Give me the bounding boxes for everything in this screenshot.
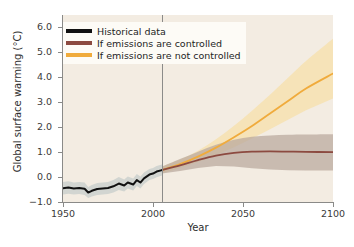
legend-swatch-controlled xyxy=(66,41,92,45)
x-tick xyxy=(153,203,154,207)
y-tick-label: 0.0 xyxy=(18,172,52,181)
y-tick xyxy=(58,52,62,53)
legend-swatch-historical xyxy=(66,29,92,33)
legend-item-historical: Historical data xyxy=(66,25,241,37)
legend-item-uncontrolled: If emissions are not controlled xyxy=(66,49,241,61)
legend-swatch-uncontrolled xyxy=(66,53,92,57)
legend-label-uncontrolled: If emissions are not controlled xyxy=(97,50,241,61)
x-tick-label: 1950 xyxy=(40,208,86,219)
climate-projection-figure: −1.00.01.02.03.04.05.06.0 19502000205021… xyxy=(0,0,354,247)
x-tick xyxy=(243,203,244,207)
x-axis-line xyxy=(62,202,334,203)
y-tick-label: 3.0 xyxy=(18,97,52,106)
y-axis-title: Global surface warming (°C) xyxy=(12,22,23,182)
y-tick-label: 4.0 xyxy=(18,72,52,81)
legend-item-controlled: If emissions are controlled xyxy=(66,37,241,49)
legend-label-controlled: If emissions are controlled xyxy=(97,38,222,49)
y-tick xyxy=(58,152,62,153)
y-tick xyxy=(58,202,62,203)
line-historical-data xyxy=(63,170,162,192)
y-tick xyxy=(58,27,62,28)
y-tick xyxy=(58,127,62,128)
legend-label-historical: Historical data xyxy=(97,26,166,37)
x-tick xyxy=(63,203,64,207)
x-tick xyxy=(333,203,334,207)
y-tick-label: 6.0 xyxy=(18,22,52,31)
y-tick xyxy=(58,102,62,103)
x-tick-label: 2050 xyxy=(220,208,266,219)
y-tick-label: 5.0 xyxy=(18,47,52,56)
line-if-emissions-are-not-controlled xyxy=(162,74,333,171)
y-tick-label: −1.0 xyxy=(18,197,52,206)
x-tick-label: 2100 xyxy=(310,208,354,219)
y-tick xyxy=(58,77,62,78)
y-tick-label: 1.0 xyxy=(18,147,52,156)
chart-legend: Historical data If emissions are control… xyxy=(63,22,246,64)
y-tick xyxy=(58,177,62,178)
y-tick-label: 2.0 xyxy=(18,122,52,131)
x-tick-label: 2000 xyxy=(130,208,176,219)
x-axis-title: Year xyxy=(63,222,333,233)
